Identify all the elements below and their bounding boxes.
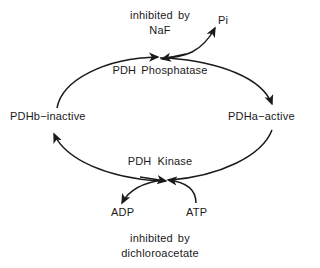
metabolite-label-pi: Pi <box>218 14 228 26</box>
arc-kinase-to-adp <box>122 180 164 203</box>
inhibited-text: inhibited <box>130 9 173 21</box>
pdh-text: PDH <box>112 64 136 76</box>
species-label-pdhb-inactive: PDHb−inactive <box>10 110 86 122</box>
metabolite-label-adp: ADP <box>111 206 134 218</box>
enzyme-label-pdh-kinase: PDHKinase <box>128 155 193 167</box>
inhibitor-label-naf: inhibitedby NaF <box>130 8 190 38</box>
phosphatase-text: Phosphatase <box>141 64 207 76</box>
by-text: by <box>178 9 190 21</box>
inhibitor-label-dichloroacetate: inhibitedby dichloroacetate <box>121 231 199 261</box>
enzyme-label-pdh-phosphatase: PDHPhosphatase <box>112 64 207 76</box>
species-label-pdha-active: PDHa−active <box>228 110 295 122</box>
pdh-text-kinase: PDH <box>128 155 152 167</box>
pdh-cycle-diagram: inhibitedby NaF Pi PDHPhosphatase PDHb−i… <box>0 0 320 268</box>
diagram-arrows <box>0 0 320 268</box>
kinase-text: Kinase <box>157 155 192 167</box>
dichloroacetate-text: dichloroacetate <box>121 246 199 261</box>
inhibited-text-bottom: inhibited <box>130 232 173 244</box>
by-text-bottom: by <box>178 232 190 244</box>
naf-text: NaF <box>130 23 190 38</box>
metabolite-label-atp: ATP <box>186 206 207 218</box>
arc-atp-to-kinase <box>168 180 196 203</box>
